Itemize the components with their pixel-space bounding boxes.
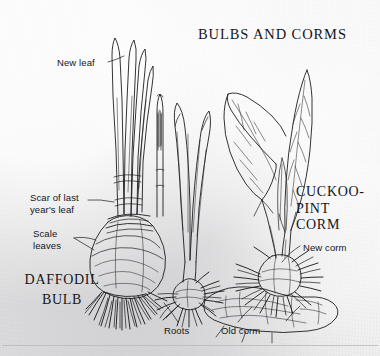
label-new-leaf: New leaf	[57, 57, 95, 69]
label-scar-line2: year's leaf	[30, 204, 74, 215]
label-scar-line1: Scar of last	[30, 192, 79, 203]
label-new-corm: New corm	[303, 242, 347, 254]
label-scale-leaves: Scaleleaves	[33, 228, 61, 251]
cuckoo-caption-line2: PINT	[296, 201, 330, 216]
label-roots: Roots	[164, 325, 189, 337]
daffodil-flower-stalk	[156, 94, 164, 217]
leader-scale-leaves-lower	[74, 238, 94, 250]
leader-new-leaf	[108, 56, 124, 62]
figure-title: BULBS AND CORMS	[198, 26, 347, 42]
label-scale-line1: Scale	[33, 228, 57, 239]
daffodil-leaves	[112, 38, 153, 217]
cuckoo-pint-corm-caption: CUCKOO-PINTCORM	[296, 184, 365, 234]
new-corm-roots-fine	[236, 257, 320, 315]
cuckoo-pint-inner-leaf	[278, 158, 288, 230]
daffodil-caption-line1: DAFFODIL	[25, 272, 100, 287]
cuckoo-pint-left-leaf	[224, 93, 286, 216]
cuckoo-pint-petioles	[262, 200, 291, 258]
cuckoo-caption-line1: CUCKOO-	[296, 184, 365, 199]
label-old-corm: Old corm	[221, 325, 260, 337]
daffodil-caption-line2: BULB	[42, 292, 82, 307]
new-corm-body	[258, 255, 301, 297]
label-scale-line2: leaves	[33, 240, 61, 251]
cuckoo-caption-line3: CORM	[296, 217, 340, 232]
illustration-page: .ink { fill:none; stroke:#1d1d20; stroke…	[0, 0, 380, 356]
leader-scar	[88, 200, 114, 202]
leader-new-corm	[282, 246, 300, 262]
daffodil-neck-scars	[106, 214, 153, 233]
label-scar-of-last-years-leaf: Scar of lastyear's leaf	[30, 192, 79, 215]
young-corm-roots	[155, 272, 224, 327]
daffodil-bulb-caption: DAFFODILBULB	[14, 270, 110, 310]
